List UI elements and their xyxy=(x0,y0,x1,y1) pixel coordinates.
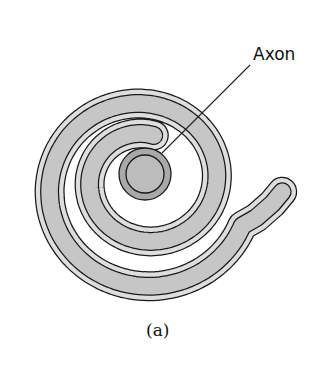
figure: Axon (a) xyxy=(0,0,320,369)
axon-cross-section xyxy=(119,148,171,200)
myelin-sheath-spiral xyxy=(50,104,283,287)
axon-label: Axon xyxy=(253,44,295,64)
axon-inner-circle xyxy=(126,155,164,193)
figure-caption: (a) xyxy=(146,320,169,340)
